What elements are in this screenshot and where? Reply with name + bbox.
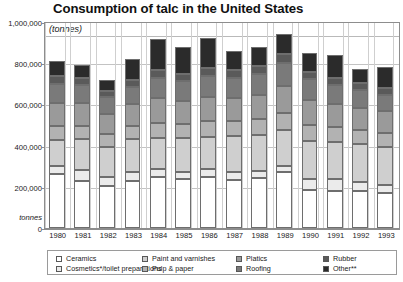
bar-segment — [200, 137, 216, 169]
column-separator — [393, 23, 394, 228]
bar-segment — [74, 65, 90, 78]
x-axis-tick-label: 1990 — [298, 231, 323, 240]
bar-segment — [175, 101, 191, 124]
bar-segment — [251, 135, 267, 171]
column-separator — [146, 23, 147, 228]
x-axis-tick-label: 1987 — [222, 231, 247, 240]
bar-segment — [226, 70, 242, 78]
bar-1983 — [125, 59, 141, 228]
bar-segment — [302, 179, 318, 190]
column-separator — [292, 23, 293, 228]
bar-segment — [175, 124, 191, 138]
bar-segment — [276, 130, 292, 167]
bar-segment — [352, 144, 368, 182]
legend-item[interactable]: Pulp & paper — [142, 264, 194, 273]
bar-segment — [377, 185, 393, 193]
column-separator — [197, 23, 198, 228]
bar-segment — [200, 38, 216, 67]
bar-segment — [226, 180, 242, 228]
legend-label: Platics — [246, 254, 267, 263]
y-axis: 0200,000400,000600,000800,0001,000,000to… — [0, 0, 42, 229]
bar-segment — [251, 178, 267, 228]
bar-segment — [226, 98, 242, 121]
legend-label: Paint and varnishes — [152, 254, 215, 263]
bar-1980 — [49, 61, 65, 228]
bar-segment — [302, 190, 318, 228]
bar-segment — [327, 78, 343, 85]
legend-swatch-icon — [323, 256, 329, 262]
column-separator — [90, 23, 91, 228]
chart-screenshot: Consumption of talc in the United States… — [0, 0, 403, 282]
bar-segment — [99, 97, 115, 113]
bar-segment — [226, 78, 242, 98]
x-axis-tick-label: 1986 — [197, 231, 222, 240]
x-axis-tick-label: 1993 — [374, 231, 399, 240]
bar-segment — [99, 80, 115, 91]
x-axis-tick-label: 1982 — [96, 231, 121, 240]
column-separator — [374, 23, 375, 228]
bar-segment — [125, 80, 141, 87]
bar-segment — [150, 169, 166, 177]
bar-1991 — [327, 55, 343, 228]
bar-segment — [74, 139, 90, 170]
bar-segment — [74, 103, 90, 125]
bar-segment — [251, 171, 267, 177]
legend-swatch-icon — [56, 266, 62, 272]
bar-segment — [377, 193, 393, 228]
bar-segment — [251, 119, 267, 135]
legend-item[interactable]: Platics — [236, 254, 267, 263]
legend-swatch-icon — [236, 256, 242, 262]
chart-title: Consumption of talc in the United States — [53, 1, 303, 16]
bar-1986 — [200, 38, 216, 228]
bar-segment — [150, 39, 166, 70]
legend-item[interactable]: Rubber — [323, 254, 357, 263]
bar-segment — [302, 72, 318, 80]
x-axis-tick-label: 1981 — [70, 231, 95, 240]
bar-segment — [226, 172, 242, 180]
bar-segment — [276, 86, 292, 112]
y-axis-tick-label: 200,000 — [0, 184, 42, 193]
bar-segment — [150, 98, 166, 122]
bar-segment — [352, 130, 368, 144]
bar-segment — [125, 172, 141, 181]
bars-container — [45, 23, 399, 228]
legend-item[interactable]: Paint and varnishes — [142, 254, 215, 263]
bar-segment — [276, 54, 292, 63]
bar-segment — [377, 111, 393, 133]
legend-item[interactable]: Other** — [323, 264, 357, 273]
bar-segment — [327, 127, 343, 142]
bar-1989 — [276, 34, 292, 228]
bar-segment — [49, 103, 65, 126]
x-axis-tick-label: 1984 — [146, 231, 171, 240]
column-separator — [247, 23, 248, 228]
bar-segment — [251, 66, 267, 74]
legend-label: Roofing — [246, 264, 271, 273]
column-separator — [323, 23, 324, 228]
bar-segment — [125, 181, 141, 228]
x-axis-tick-label: 1992 — [348, 231, 373, 240]
x-axis-tick-label: 1991 — [323, 231, 348, 240]
column-separator — [115, 23, 116, 228]
legend-label: Ceramics — [66, 254, 96, 263]
bar-segment — [226, 51, 242, 71]
bar-segment — [200, 169, 216, 177]
legend-item[interactable]: Ceramics — [56, 254, 96, 263]
bar-1984 — [150, 38, 166, 228]
bar-segment — [99, 114, 115, 135]
bar-segment — [302, 79, 318, 99]
column-separator — [222, 23, 223, 228]
bar-segment — [226, 121, 242, 136]
bar-segment — [99, 134, 115, 146]
bar-segment — [125, 126, 141, 139]
legend-item[interactable]: Roofing — [236, 264, 271, 273]
bar-segment — [49, 126, 65, 140]
column-separator — [171, 23, 172, 228]
bar-segment — [49, 76, 65, 84]
bar-segment — [327, 179, 343, 191]
x-axis-tick-label: 1988 — [247, 231, 272, 240]
bar-segment — [49, 140, 65, 166]
bar-segment — [49, 84, 65, 103]
x-axis-line — [44, 229, 400, 230]
bar-segment — [302, 100, 318, 125]
column-separator — [45, 23, 46, 228]
